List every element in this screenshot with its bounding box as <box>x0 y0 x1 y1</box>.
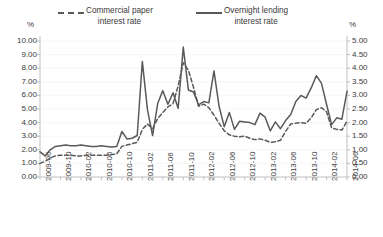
plot-area <box>0 0 383 237</box>
series-line-commercial-paper <box>40 63 347 164</box>
interest-rate-line-chart: Commercial paper interest rate Overnight… <box>0 0 383 237</box>
series-line-overnight-lending <box>40 47 347 156</box>
